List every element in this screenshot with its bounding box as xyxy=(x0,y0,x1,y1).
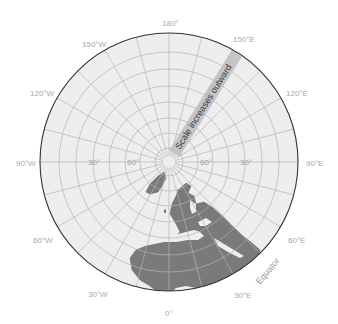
lon-label-150e: 150°E xyxy=(233,35,255,44)
lon-label-0: 0° xyxy=(165,309,173,318)
lat-label-30-right: 30° xyxy=(240,158,252,167)
lon-label-120w: 120°W xyxy=(30,89,55,98)
lat-label-60-right: 60° xyxy=(200,158,212,167)
pole-cap xyxy=(163,156,175,168)
lat-label-60-left: 60° xyxy=(127,158,139,167)
lon-label-90e: 90°E xyxy=(306,159,323,168)
lon-label-60e: 60°E xyxy=(288,236,305,245)
polar-map: Scale increases outward 30° 60° 60° 30° … xyxy=(0,0,338,324)
lon-label-30e: 30°E xyxy=(234,291,251,300)
lon-label-90w: 90°W xyxy=(16,159,36,168)
lat-label-30-left: 30° xyxy=(88,158,100,167)
lon-label-120e: 120°E xyxy=(286,89,308,98)
lon-label-30w: 30°W xyxy=(88,290,108,299)
equator-label: Equator xyxy=(254,256,282,287)
lon-label-60w: 60°W xyxy=(33,236,53,245)
lon-label-180: 180° xyxy=(162,19,179,28)
lon-label-150w: 150°W xyxy=(82,40,107,49)
